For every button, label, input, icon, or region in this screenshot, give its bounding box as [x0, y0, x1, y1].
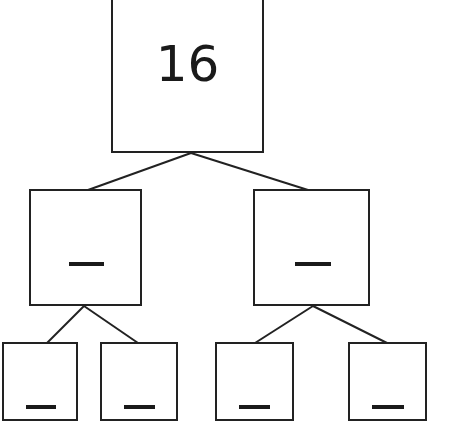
blank-dash — [239, 405, 270, 409]
blank-dash — [69, 262, 104, 266]
blank-dash — [295, 262, 331, 266]
root-box: 16 — [111, 0, 264, 153]
right-mid-box[interactable] — [253, 189, 370, 306]
left-right-leaf-box[interactable] — [100, 342, 178, 421]
blank-dash — [124, 405, 155, 409]
right-right-leaf-box[interactable] — [348, 342, 427, 421]
left-mid-box[interactable] — [29, 189, 142, 306]
blank-dash — [372, 405, 404, 409]
left-left-leaf-box[interactable] — [2, 342, 78, 421]
right-left-leaf-box[interactable] — [215, 342, 294, 421]
root-value: 16 — [113, 36, 262, 92]
blank-dash — [26, 405, 56, 409]
